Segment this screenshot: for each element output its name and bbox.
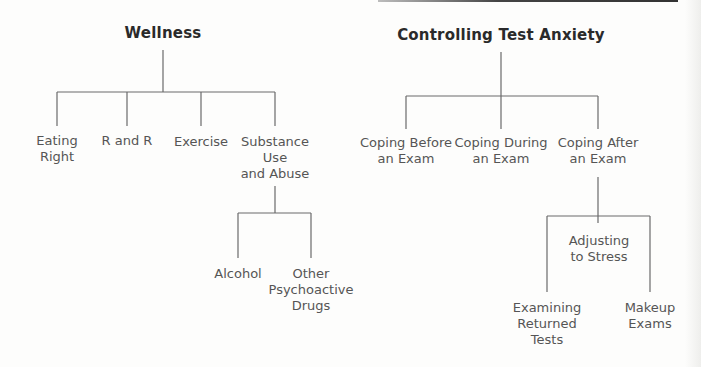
node-r-and-r: R and R — [102, 133, 153, 149]
node-coping-during: Coping During an Exam — [454, 135, 547, 167]
node-adjusting-to-stress: Adjusting to Stress — [569, 233, 630, 265]
anxiety-title: Controlling Test Anxiety — [397, 26, 605, 44]
node-coping-after: Coping After an Exam — [558, 135, 639, 167]
node-makeup-exams: Makeup Exams — [625, 300, 676, 332]
node-substance-use: Substance Use and Abuse — [241, 134, 310, 182]
node-coping-before: Coping Before an Exam — [360, 135, 452, 167]
node-examining-returned-tests: Examining Returned Tests — [513, 300, 582, 348]
node-other-psychoactive-drugs: Other Psychoactive Drugs — [269, 266, 354, 314]
node-alcohol: Alcohol — [214, 266, 261, 282]
wellness-title: Wellness — [125, 24, 202, 42]
node-eating-right: Eating Right — [36, 133, 77, 165]
node-exercise: Exercise — [174, 134, 228, 150]
